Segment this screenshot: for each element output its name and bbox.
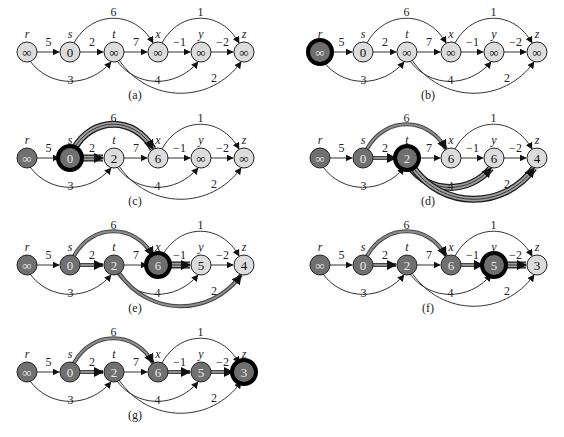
node-name: y [197, 240, 204, 254]
panel-caption: (b) [421, 88, 435, 102]
edge-weight: 2 [89, 141, 95, 155]
node-name: r [25, 133, 30, 147]
node-x: ∞x [441, 27, 461, 62]
node-s: 0s [60, 347, 80, 382]
edge-s-t: 2 [373, 141, 396, 158]
edge-weight: 7 [426, 248, 432, 262]
edge-t-y: 4 [117, 61, 198, 87]
edge-s-t: 2 [80, 35, 103, 52]
edge-weight: −2 [216, 248, 229, 262]
edge-t-x: 7 [124, 248, 147, 265]
edge-r-t: 3 [323, 167, 404, 193]
panel-caption: (d) [421, 194, 435, 208]
node-name: r [318, 27, 323, 41]
node-x: 6x [148, 347, 168, 382]
edge-weight: −1 [173, 248, 186, 262]
edge-weight: 7 [133, 35, 139, 49]
node-name: y [197, 347, 204, 361]
node-r: ∞r [17, 27, 37, 62]
node-distance: ∞ [239, 45, 248, 60]
node-z: ∞z [527, 27, 547, 62]
node-name: s [68, 27, 73, 41]
node-name: x [154, 240, 161, 254]
edge-s-t: 2 [373, 248, 396, 265]
node-name: z [241, 347, 247, 361]
node-distance: 0 [360, 258, 367, 273]
edge-y-z: −2 [211, 248, 233, 265]
edge-weight: 2 [89, 35, 95, 49]
node-distance: 2 [404, 258, 411, 273]
node-s: 0s [60, 27, 80, 62]
edge-r-t: 3 [30, 274, 111, 300]
edge-weight: 6 [111, 5, 117, 19]
panel-caption: (g) [128, 408, 142, 422]
edge-weight: 3 [68, 286, 74, 300]
node-distance: ∞ [22, 365, 31, 380]
node-name: t [112, 347, 116, 361]
edge-weight: 6 [111, 111, 117, 125]
edge-y-z: −2 [504, 35, 526, 52]
node-name: z [241, 27, 247, 41]
node-name: y [490, 240, 497, 254]
edge-t-x: 7 [124, 355, 147, 372]
node-x: 6x [146, 240, 170, 277]
node-y: ∞y [191, 27, 211, 62]
node-distance: ∞ [532, 45, 541, 60]
node-distance: 6 [155, 151, 162, 166]
node-name: z [534, 240, 540, 254]
edge-weight: 4 [155, 393, 161, 407]
edge-weight: 1 [198, 325, 204, 339]
edge-weight: −2 [216, 355, 229, 369]
edge-y-z: −2 [211, 141, 233, 158]
node-distance: 0 [67, 45, 74, 60]
node-name: s [68, 240, 73, 254]
edge-weight: 6 [111, 325, 117, 339]
node-name: x [447, 27, 454, 41]
panel-c: 5326742−11−2∞r0s2t6x∞y∞z(c) [17, 111, 254, 208]
node-distance: 0 [360, 45, 367, 60]
node-distance: 6 [448, 258, 455, 273]
edge-s-t: 2 [80, 355, 103, 372]
edge-weight: −1 [466, 141, 479, 155]
node-distance: 0 [67, 258, 74, 273]
edge-weight: −2 [216, 141, 229, 155]
edge-weight: 1 [198, 5, 204, 19]
edge-t-x: 7 [124, 141, 147, 158]
node-name: s [68, 133, 73, 147]
edge-r-t: 3 [323, 274, 404, 300]
edge-weight: 2 [211, 177, 217, 191]
edge-r-t: 3 [30, 381, 111, 407]
node-name: y [197, 27, 204, 41]
node-y: ∞y [484, 27, 504, 62]
panel-e: 5326742−11−2∞r0s2t6x5y4z(e) [17, 218, 254, 315]
edge-weight: 5 [339, 141, 345, 155]
edge-weight: 7 [133, 141, 139, 155]
node-r: ∞r [310, 133, 330, 168]
node-distance: 3 [534, 258, 541, 273]
edge-weight: 4 [448, 73, 454, 87]
node-name: s [361, 133, 366, 147]
node-z: 3z [232, 347, 256, 384]
edge-weight: 3 [68, 73, 74, 87]
edge-weight: 7 [426, 35, 432, 49]
edge-weight: 7 [133, 248, 139, 262]
node-name: z [534, 27, 540, 41]
edge-weight: −1 [173, 355, 186, 369]
node-distance: 6 [448, 151, 455, 166]
edge-s-t: 2 [80, 248, 103, 265]
node-t: ∞t [397, 27, 417, 62]
node-distance: 0 [67, 151, 74, 166]
edge-weight: 2 [382, 35, 388, 49]
node-name: t [405, 240, 409, 254]
edge-r-s: 5 [37, 248, 59, 265]
edge-weight: −1 [466, 35, 479, 49]
node-distance: 0 [360, 151, 367, 166]
node-distance: ∞ [402, 45, 411, 60]
edge-weight: 2 [211, 71, 217, 85]
node-y: 5y [191, 240, 211, 275]
node-distance: ∞ [315, 45, 324, 60]
edge-weight: 6 [404, 218, 410, 232]
node-name: y [490, 27, 497, 41]
node-t: 2t [395, 133, 419, 170]
edge-weight: 1 [491, 5, 497, 19]
